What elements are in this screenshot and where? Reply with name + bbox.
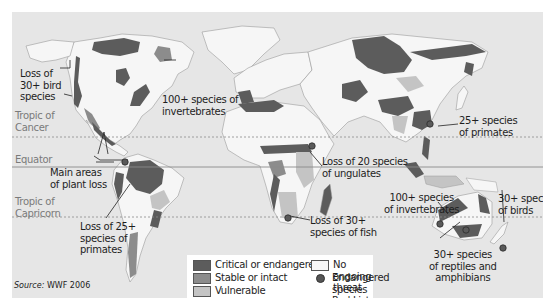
legend-label: Endangered species Red List hotspot <box>332 272 389 298</box>
annotation-bird-loss-na: Loss of 30+ bird species <box>20 68 61 103</box>
critical-swatch-icon <box>193 260 211 271</box>
annotation-primates-sa: Loss of 25+ species of primates <box>80 221 136 256</box>
vulnerable-swatch-icon <box>193 286 211 297</box>
tropic-of-capricorn-label: Tropic of Capricorn <box>15 196 61 219</box>
annotation-line: primates <box>80 244 136 256</box>
annotation-line: of birds <box>498 205 543 217</box>
annotation-line: Loss of 20 species <box>322 156 408 168</box>
tropic-capricorn-line1: Tropic of <box>15 196 61 208</box>
alaska <box>26 40 74 62</box>
annotation-line: species of <box>80 233 136 245</box>
annotation-line: of primates <box>459 127 517 139</box>
hotspot-east-africa <box>309 143 315 149</box>
annotation-line: amphibians <box>429 272 497 284</box>
annotation-line: species of fish <box>310 227 377 239</box>
annotation-line: 25+ species <box>459 115 517 127</box>
stable-swatch-icon <box>193 273 211 284</box>
annotation-line: 100+ species <box>384 192 459 204</box>
new-zealand <box>490 222 508 244</box>
tropic-cancer-line1: Tropic of <box>15 110 54 122</box>
annotation-primates-asia: 25+ species of primates <box>459 115 517 138</box>
legend-item-stable: Stable or intact <box>193 272 287 284</box>
annotation-line: species <box>20 91 61 103</box>
tropic-cancer-line2: Cancer <box>15 122 54 134</box>
annotation-line: of invertebrates <box>384 204 459 216</box>
source-text: WWF 2006 <box>47 281 90 290</box>
annotation-line: 100+ species of <box>162 94 238 106</box>
annotation-line: of reptiles and <box>429 261 497 273</box>
world-map-frame: Tropic of Cancer Equator Tropic of Capri… <box>12 12 543 298</box>
map-legend: Critical or endangered Stable or intact … <box>187 255 373 298</box>
madagascar <box>320 184 332 216</box>
source-credit: Source: WWF 2006 <box>14 281 90 290</box>
annotation-line: of plant loss <box>50 179 107 191</box>
annotation-line: Main areas <box>50 167 107 179</box>
hotspot-dot-icon <box>316 274 325 283</box>
source-prefix: Source: <box>14 281 44 290</box>
annotation-line: Loss of 30+ <box>310 215 377 227</box>
hotspot-sw-australia <box>437 221 443 227</box>
legend-label: Critical or endangered <box>215 259 320 271</box>
hotspot-south-africa <box>285 215 291 221</box>
annotation-fish: Loss of 30+ species of fish <box>310 215 377 238</box>
annotation-line: of ungulates <box>322 168 408 180</box>
legend-item-hotspot: Endangered species Red List hotspot <box>311 272 389 298</box>
hotspot-se-australia <box>463 227 469 233</box>
legend-label-line1: Endangered species <box>332 272 389 295</box>
legend-item-critical: Critical or endangered <box>193 259 320 271</box>
annotation-line: invertebrates <box>162 106 238 118</box>
no-threat-swatch-icon <box>311 260 329 271</box>
annotation-line: 30+ bird <box>20 80 61 92</box>
annotation-ungulates: Loss of 20 species of ungulates <box>322 156 408 179</box>
japan <box>456 86 468 110</box>
hotspot-andes <box>122 159 128 165</box>
legend-item-vulnerable: Vulnerable <box>193 285 265 297</box>
legend-label: Stable or intact <box>215 272 287 284</box>
annotation-reptiles: 30+ species of reptiles and amphibians <box>429 249 497 284</box>
legend-label-line2: Red List hotspot <box>332 295 389 298</box>
annotation-birds-nz: 30+ species of birds <box>498 193 543 216</box>
annotation-plant-loss: Main areas of plant loss <box>50 167 107 190</box>
hotspot-new-zealand <box>500 245 506 251</box>
annotation-invertebrates-aus: 100+ species of invertebrates <box>384 192 459 215</box>
annotation-line: 30+ species <box>429 249 497 261</box>
tropic-capricorn-line2: Capricorn <box>15 208 61 220</box>
tropic-of-cancer-label: Tropic of Cancer <box>15 110 54 133</box>
annotation-line: Loss of <box>20 68 61 80</box>
annotation-line: Loss of 25+ <box>80 221 136 233</box>
annotation-invertebrates-med: 100+ species of invertebrates <box>162 94 238 117</box>
hotspot-china <box>427 121 433 127</box>
equator-label: Equator <box>15 154 52 166</box>
annotation-line: 30+ species <box>498 193 543 205</box>
legend-label: Vulnerable <box>215 285 265 297</box>
